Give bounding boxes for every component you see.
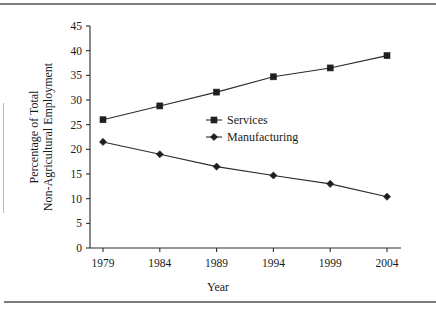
x-tick-label: 1989 — [205, 257, 228, 269]
series-marker-square — [327, 65, 333, 71]
x-tick-label: 1984 — [148, 257, 171, 269]
y-axis: 051015202530354045 — [71, 20, 91, 254]
series-marker-square — [214, 89, 220, 95]
series-marker-diamond — [270, 172, 277, 179]
x-tick-label: 1999 — [319, 257, 342, 269]
y-tick-label: 35 — [71, 69, 83, 81]
x-tick-label: 1994 — [262, 257, 285, 269]
legend-label-services: Services — [227, 113, 268, 127]
series-marker-square — [384, 53, 390, 59]
series-marker-diamond — [213, 163, 220, 170]
x-tick-label: 2004 — [376, 257, 399, 269]
series-marker-square — [157, 103, 163, 109]
legend-label-manufacturing: Manufacturing — [227, 130, 298, 144]
series-marker-square — [211, 117, 217, 123]
series-marker-square — [100, 117, 106, 123]
y-tick-label: 0 — [76, 242, 82, 254]
y-tick-label: 10 — [71, 193, 83, 205]
y-tick-label: 30 — [71, 94, 83, 106]
series-marker-diamond — [99, 138, 106, 145]
line-chart: 051015202530354045 197919841989199419992… — [0, 0, 436, 317]
x-axis-title: Year — [207, 280, 229, 294]
series-marker-diamond — [383, 193, 390, 200]
x-axis: 197919841989199419992004 — [90, 248, 401, 269]
series-marker-diamond — [156, 151, 163, 158]
y-tick-label: 5 — [76, 217, 82, 229]
series-marker-diamond — [327, 180, 334, 187]
series-line-services — [103, 56, 387, 120]
figure-container: 051015202530354045 197919841989199419992… — [0, 0, 436, 317]
y-tick-label: 25 — [71, 119, 83, 131]
y-axis-title-line-2: Non-Agricultural Employment — [41, 62, 55, 211]
y-axis-title-line-1: Percentage of Total — [27, 90, 41, 184]
y-tick-label: 15 — [71, 168, 83, 180]
y-tick-label: 40 — [71, 45, 83, 57]
series-line-manufacturing — [103, 142, 387, 197]
y-tick-label: 20 — [71, 143, 83, 155]
y-tick-label: 45 — [71, 20, 83, 32]
series-marker-diamond — [210, 133, 217, 140]
series-marker-square — [270, 74, 276, 80]
chart-legend: ServicesManufacturing — [206, 113, 298, 144]
x-tick-label: 1979 — [92, 257, 115, 269]
